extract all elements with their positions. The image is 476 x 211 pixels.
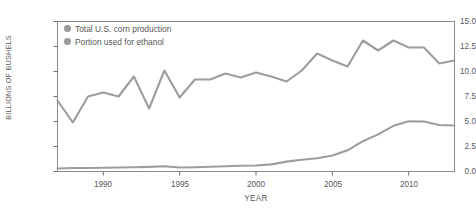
series-line-corn-production	[58, 41, 455, 123]
x-tick-marks	[103, 172, 408, 176]
y-tick-marks	[54, 22, 58, 172]
corn-production-chart: BILLIONS OF BUSHELS 15.0 12.5 10.0 7.5 5…	[0, 0, 476, 211]
plot-area	[0, 0, 476, 211]
series-line-ethanol	[58, 121, 455, 168]
